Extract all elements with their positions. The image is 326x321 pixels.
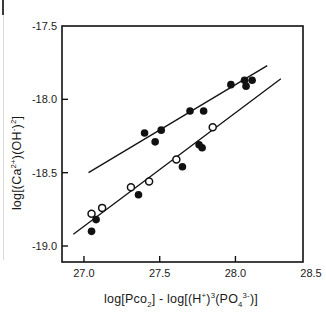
x-axis-label: log[Pco2] - log[(H+)3(PO43-)] xyxy=(18,292,326,306)
data-point-open xyxy=(146,178,153,185)
data-point-filled xyxy=(88,228,96,236)
y-tick-label: -19.0 xyxy=(32,240,57,252)
data-point-open xyxy=(209,124,216,131)
y-axis-label: log[(Ca2+)(OH-)2] xyxy=(10,13,24,313)
y-tick-label: -18.5 xyxy=(32,167,57,179)
data-point-filled xyxy=(141,129,149,137)
data-point-filled xyxy=(186,107,194,115)
data-point-open xyxy=(88,210,95,217)
data-point-filled xyxy=(227,81,235,89)
data-point-open xyxy=(173,156,180,163)
x-tick-label: 28.5 xyxy=(300,267,321,279)
x-tick-label: 28.0 xyxy=(225,267,246,279)
data-point-filled xyxy=(179,163,187,171)
data-point-filled xyxy=(242,82,250,90)
y-tick-label: -18.0 xyxy=(32,93,57,105)
data-point-open xyxy=(99,204,106,211)
data-point-filled xyxy=(135,191,143,199)
data-point-filled xyxy=(151,138,159,146)
x-tick-label: 27.0 xyxy=(73,267,94,279)
plot-canvas: 27.027.528.028.5-17.5-18.0-18.5-19.0 xyxy=(0,0,326,321)
y-tick-label: -17.5 xyxy=(32,20,57,32)
plot-frame xyxy=(62,26,303,262)
data-point-filled xyxy=(157,126,165,134)
data-point-filled xyxy=(248,76,256,84)
data-point-filled xyxy=(198,144,206,152)
data-point-open xyxy=(127,184,134,191)
data-point-filled xyxy=(200,107,208,115)
x-tick-label: 27.5 xyxy=(149,267,170,279)
scatter-plot-figure: 27.027.528.028.5-17.5-18.0-18.5-19.0 log… xyxy=(0,0,326,321)
